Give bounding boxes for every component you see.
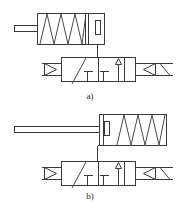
valve-a-spring-return-diagonal — [160, 64, 170, 76]
circuit-diagram-svg: a) — [0, 0, 186, 209]
valve-a-outlet-arrow-icon — [144, 64, 156, 76]
valve-b — [42, 162, 173, 189]
cylinder-a-piston — [86, 14, 89, 45]
cylinder-a — [15, 14, 105, 58]
valve-b-outlet-arrow-icon — [144, 168, 156, 180]
cylinder-b-rod — [15, 127, 100, 133]
valve-b-spring-return-diagonal — [160, 168, 170, 180]
panel-a-caption: a) — [87, 91, 94, 101]
cylinder-b-end-cap-detail — [105, 122, 110, 136]
valve-b-inlet-arrow-icon — [45, 168, 57, 180]
panel-b-caption: b) — [86, 191, 94, 201]
cylinder-a-rod — [15, 26, 38, 32]
schematic-figure: a) — [0, 0, 186, 209]
cylinder-a-end-cap-detail — [96, 21, 101, 35]
valve-a-inlet-arrow-icon — [45, 64, 57, 76]
valve-a — [42, 58, 173, 85]
cylinder-b — [15, 115, 167, 162]
panel-a: a) — [15, 14, 173, 102]
cylinder-b-piston — [100, 115, 104, 146]
panel-b: b) — [15, 115, 173, 202]
